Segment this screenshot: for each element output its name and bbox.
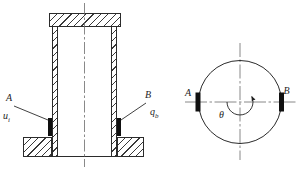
linework-overlay: A B θ [0,0,303,171]
leader-line-b [121,103,146,120]
signal-b-sub: b [155,112,159,120]
top-label-b: B [284,85,290,96]
signal-a-sub: i [8,116,10,124]
top-label-a: A [184,87,192,98]
front-label-a: A [6,93,12,103]
leader-line-a [14,106,48,120]
front-label-b: B [145,90,151,100]
sensor-schematic-diagram: A ui B qb A B θ [0,0,303,171]
element-a-sensor-top [196,93,201,112]
front-signal-b-label: qb [150,107,159,117]
angle-theta-label: θ [219,109,224,120]
top-view-figure: A B θ [184,43,297,160]
front-signal-a-label: ui [3,111,10,121]
